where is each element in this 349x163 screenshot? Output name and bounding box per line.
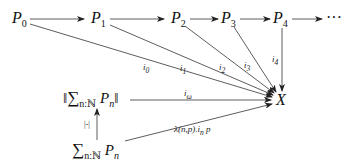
label-lambda-map: λ(n,p).in p: [174, 125, 210, 137]
sigma-index: n:ℕ: [79, 98, 96, 109]
node-p3-sub: 3: [231, 18, 236, 29]
node-p2-base: P: [171, 9, 181, 26]
label-truncation-map: |-|: [84, 120, 90, 129]
node-p3: P3: [221, 10, 236, 32]
label-sub: ω: [187, 92, 192, 101]
arrow-p1-x: [110, 25, 273, 95]
node-p2: P2: [171, 10, 186, 32]
node-p0: P0: [12, 10, 27, 32]
norm-close: ‖: [114, 90, 118, 106]
label-i0: i0: [143, 63, 149, 75]
label-i-omega: iω: [184, 89, 192, 101]
label-sub: 0: [146, 66, 150, 75]
node-x: X: [276, 92, 286, 108]
node-p2-sub: 2: [181, 18, 186, 29]
node-p1: P1: [91, 10, 106, 32]
sigma-index: n:ℕ: [84, 150, 101, 161]
node-sum: ∑n:ℕ Pn: [72, 142, 119, 163]
node-p0-sub: 0: [22, 18, 27, 29]
node-p4-base: P: [273, 9, 283, 26]
sum-base-sub: n: [114, 150, 119, 161]
arrow-p2-x: [185, 26, 274, 93]
node-p3-base: P: [221, 9, 231, 26]
label-pre: λ(n,p).i: [174, 124, 200, 134]
node-truncated-sum: ‖∑n:ℕ Pn‖: [63, 90, 118, 112]
sigma-symbol: ∑: [72, 140, 84, 159]
arrow-p3-x: [234, 27, 276, 92]
node-p1-base: P: [91, 9, 101, 26]
sum-base: P: [105, 142, 114, 158]
node-p4: P4: [273, 10, 288, 32]
label-i4: i4: [272, 55, 278, 67]
trunc-base: P: [100, 90, 109, 106]
label-sub: 2: [222, 66, 226, 75]
node-p4-sub: 4: [283, 18, 288, 29]
node-p0-base: P: [12, 9, 22, 26]
sigma-symbol: ∑: [67, 88, 79, 107]
label-i3: i3: [244, 61, 250, 73]
label-sub: 1: [183, 67, 187, 76]
label-i1: i1: [180, 64, 186, 76]
node-ellipsis: ···: [326, 10, 342, 26]
label-sub: 3: [247, 64, 251, 73]
label-post: p: [204, 124, 211, 134]
label-i2: i2: [219, 63, 225, 75]
node-p1-sub: 1: [101, 18, 106, 29]
arrow-p0-x: [30, 24, 272, 97]
label-sub: 4: [275, 58, 279, 67]
